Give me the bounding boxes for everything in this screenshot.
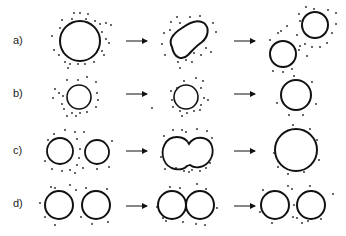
row-c-stage-3-dots — [273, 124, 320, 175]
diagram-canvas — [0, 0, 346, 236]
row-a-stage-3 — [270, 12, 328, 67]
row-b-stage-1-dots — [52, 76, 99, 117]
row-c-stage-2 — [163, 137, 213, 169]
row-c-stage-1 — [47, 138, 109, 164]
row-a-stage-1 — [60, 21, 100, 61]
row-b-stage-3 — [281, 80, 311, 110]
row-a-stage-2 — [171, 21, 208, 58]
row-c-stage-3 — [275, 129, 317, 171]
row-c-stage-1-dots — [44, 129, 113, 174]
row-d-stage-2 — [158, 191, 214, 219]
row-d-stage-1 — [45, 191, 110, 219]
row-b-stage-1 — [67, 85, 91, 109]
row-b-stage-2-dots — [151, 77, 209, 117]
row-d-stage-3 — [261, 191, 325, 219]
row-a-stage-3-dots — [269, 6, 337, 73]
arrows — [126, 41, 255, 206]
